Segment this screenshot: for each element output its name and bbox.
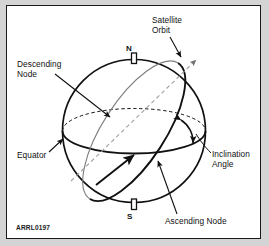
orbit-diagram [0, 0, 269, 246]
inclination-angle-arc [181, 120, 193, 143]
satellite-orbit-front-arc [90, 63, 204, 216]
south-pole-marker [132, 199, 137, 210]
orbit-node-axis-dashed [71, 60, 196, 181]
figure-root: Satellite Orbit Descending Node Equator … [0, 0, 269, 246]
label-north-pole: N [126, 44, 132, 53]
leader-ascending-node [158, 161, 177, 214]
label-descending-node: Descending Node [17, 60, 61, 79]
equator-front-arc [63, 131, 206, 154]
figure-caption: ARRL0197 [16, 224, 50, 231]
north-pole-marker [132, 53, 137, 64]
label-ascending-node: Ascending Node [165, 217, 227, 227]
leader-satellite-orbit [170, 37, 181, 57]
label-south-pole: S [127, 212, 132, 221]
leader-equator [49, 139, 63, 152]
satellite-orbit-back-arc [64, 46, 178, 199]
orbit-direction-arrow [96, 155, 134, 185]
label-equator: Equator [17, 151, 46, 161]
label-inclination-angle: Inclination Angle [212, 150, 250, 169]
label-satellite-orbit: Satellite Orbit [152, 16, 182, 35]
